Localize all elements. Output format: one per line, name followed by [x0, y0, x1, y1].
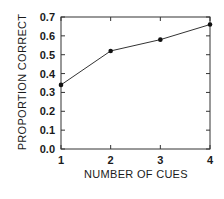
plot-frame	[61, 17, 210, 149]
data-point	[208, 22, 213, 27]
line-chart: 0.00.10.20.30.40.50.60.7 1234 NUMBER OF …	[0, 0, 224, 199]
y-tick-label: 0.2	[40, 105, 55, 117]
y-tick-label: 0.0	[40, 143, 55, 155]
series-line	[61, 25, 210, 85]
x-axis-label: NUMBER OF CUES	[84, 168, 188, 180]
data-series	[59, 22, 213, 87]
data-point	[158, 37, 163, 42]
y-tick-label: 0.5	[40, 49, 55, 61]
y-tick-label: 0.1	[40, 124, 55, 136]
x-tick-label: 2	[108, 154, 114, 166]
plot-border	[61, 17, 210, 149]
y-tick-label: 0.4	[40, 68, 56, 80]
data-point	[59, 83, 64, 88]
y-axis-label: PROPORTION CORRECT	[16, 14, 28, 151]
x-tick-label: 3	[157, 154, 163, 166]
x-tick-label: 1	[58, 154, 64, 166]
x-axis-ticks: 1234	[58, 17, 214, 166]
y-tick-label: 0.7	[40, 11, 55, 23]
y-tick-label: 0.3	[40, 86, 55, 98]
y-tick-label: 0.6	[40, 30, 55, 42]
x-tick-label: 4	[207, 154, 214, 166]
data-point	[108, 49, 113, 54]
